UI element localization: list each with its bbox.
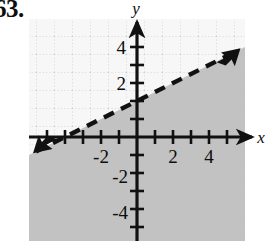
y-tick-label-2: 2: [117, 73, 127, 94]
x-axis-label: x: [256, 128, 265, 147]
y-tick-label-neg2: -2: [112, 166, 128, 187]
x-tick-label-4: 4: [204, 146, 214, 167]
x-tick-label-neg2: -2: [93, 146, 109, 167]
y-axis-label: y: [130, 0, 140, 18]
y-tick-label-4: 4: [117, 37, 127, 58]
graph-figure: 4 2 -2 -4 -2 2 4 x y: [0, 0, 274, 241]
x-tick-label-2: 2: [168, 146, 178, 167]
y-tick-label-neg4: -4: [112, 202, 128, 223]
